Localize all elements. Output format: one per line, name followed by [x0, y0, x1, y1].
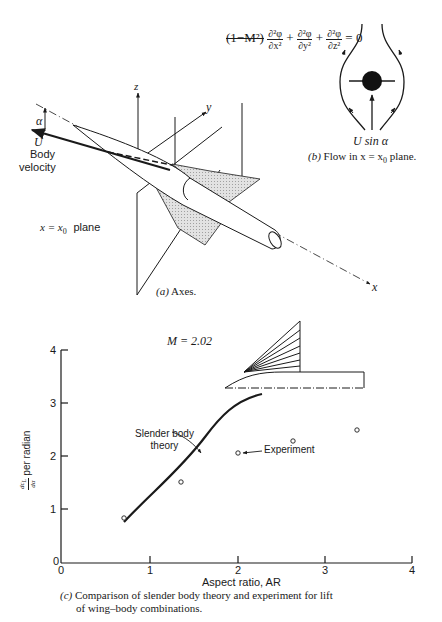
- caption-c-line1: (c) Comparison of slender body theory an…: [60, 589, 333, 601]
- figure-drawing: [0, 0, 442, 622]
- caption-c-line2: of wing–body combinations.: [76, 602, 202, 614]
- y-tick-2: 2: [50, 450, 56, 462]
- y-tick-4: 4: [50, 344, 56, 356]
- equation-prefix: (1−M²): [226, 30, 264, 45]
- x-tick-3: 3: [322, 564, 328, 576]
- caption-a: (a) Axes.: [156, 285, 196, 297]
- x-tick-2: 2: [235, 564, 241, 576]
- experiment-pointer: [243, 451, 262, 453]
- z-axis-label: z: [134, 80, 138, 92]
- theory-label: Slender body theory: [135, 428, 194, 452]
- slender-body: [73, 125, 284, 250]
- x-tick-1: 1: [147, 564, 153, 576]
- y-tick-3: 3: [50, 397, 56, 409]
- x-axis-label: x: [372, 280, 377, 295]
- wing-body-profile: [225, 321, 364, 388]
- slender-body-theory-curve: [124, 394, 262, 522]
- x-axis-title: Aspect ratio, AR: [202, 576, 281, 588]
- laplace-equation: (1−M²) ∂²φ∂x² + ∂²φ∂y² + ∂²φ∂z² = 0: [226, 28, 362, 51]
- y-tick-1: 1: [50, 503, 56, 515]
- x-tick-0: 0: [58, 564, 64, 576]
- velocity-label-velocity: velocity: [19, 161, 56, 173]
- body-cross-section: [362, 71, 382, 91]
- experiment-label: Experiment: [264, 444, 315, 455]
- mach-number-label: M = 2.02: [167, 334, 212, 349]
- x-tick-4: 4: [409, 564, 415, 576]
- y-axis-label: dcLdα per radian: [18, 431, 37, 490]
- chart-axes: [61, 350, 412, 563]
- alpha-label: α: [36, 114, 42, 129]
- flow-velocity-label: U sin α: [353, 134, 388, 149]
- plane-label: x = x0 plane: [40, 221, 100, 236]
- y-axis-label: y: [206, 100, 211, 115]
- caption-b: (b) Flow in x = x0 plane.: [308, 150, 416, 165]
- velocity-label-body: Body: [30, 148, 55, 160]
